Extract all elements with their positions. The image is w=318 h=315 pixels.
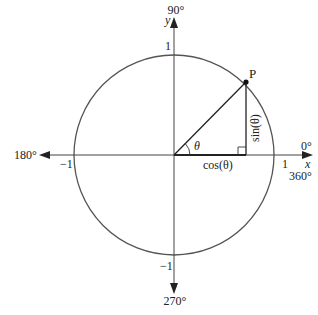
label-y-pos-tick: 1 — [165, 39, 171, 53]
y-axis-up-arrow-icon — [170, 17, 178, 28]
label-theta: θ — [194, 139, 200, 153]
unit-circle-diagram: 90° y 1 P sin(θ) θ 0° 180° −1 cos(θ) 1 x… — [0, 0, 318, 315]
point-p — [243, 79, 248, 84]
label-360-deg: 360° — [289, 169, 312, 183]
label-x-neg-tick: −1 — [60, 157, 73, 171]
right-angle-marker — [238, 147, 246, 155]
label-point-p: P — [249, 66, 256, 81]
label-y-axis: y — [164, 13, 171, 27]
label-0-deg: 0° — [301, 139, 312, 153]
label-270-deg: 270° — [164, 294, 187, 308]
label-sin: sin(θ) — [248, 114, 262, 142]
label-180-deg: 180° — [14, 148, 37, 162]
y-axis-down-arrow-icon — [170, 283, 178, 294]
theta-arc — [185, 144, 190, 155]
label-cos: cos(θ) — [203, 158, 233, 172]
label-y-neg-tick: −1 — [160, 259, 173, 273]
radius-line — [174, 82, 246, 155]
x-axis-left-arrow-icon — [39, 151, 50, 159]
label-x-pos-tick: 1 — [282, 157, 288, 171]
